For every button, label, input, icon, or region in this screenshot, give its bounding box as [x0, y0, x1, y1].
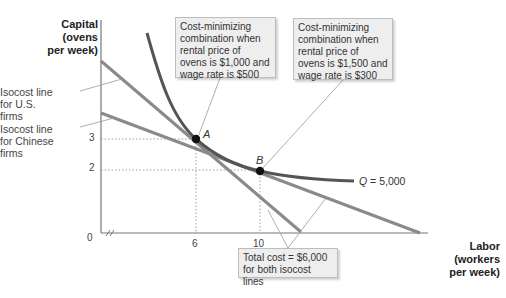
x-tick-6: 6: [192, 238, 198, 249]
y-axis-title: Capital (ovens per week): [40, 18, 98, 57]
point-a-marker: [192, 135, 200, 143]
leader-total-cost-1: [268, 210, 288, 248]
leader-callout-b: [262, 80, 343, 169]
leader-china-isocost: [80, 118, 114, 127]
chinese-isocost-label: Isocost line for Chinese firms: [0, 123, 54, 159]
callout-point-b: Cost-minimizing combination when rental …: [293, 18, 393, 80]
x-axis-title: Labor (workers per week): [420, 240, 500, 279]
isoquant-label: Q = 5,000: [359, 175, 405, 187]
point-a-label: A: [203, 128, 210, 140]
callout-total-cost: Total cost = $6,000 for both isocost lin…: [238, 248, 338, 278]
y-tick-3: 3: [89, 132, 95, 143]
point-b-label: B: [256, 154, 263, 166]
leader-total-cost-2: [288, 198, 326, 248]
origin-label: 0: [87, 232, 93, 243]
us-isocost-label: Isocost line for U.S. firms: [0, 86, 53, 122]
callout-point-a: Cost-minimizing combination when rental …: [175, 17, 276, 78]
us-isocost-line: [101, 61, 301, 232]
y-tick-2: 2: [89, 162, 95, 173]
point-b-marker: [256, 167, 264, 175]
